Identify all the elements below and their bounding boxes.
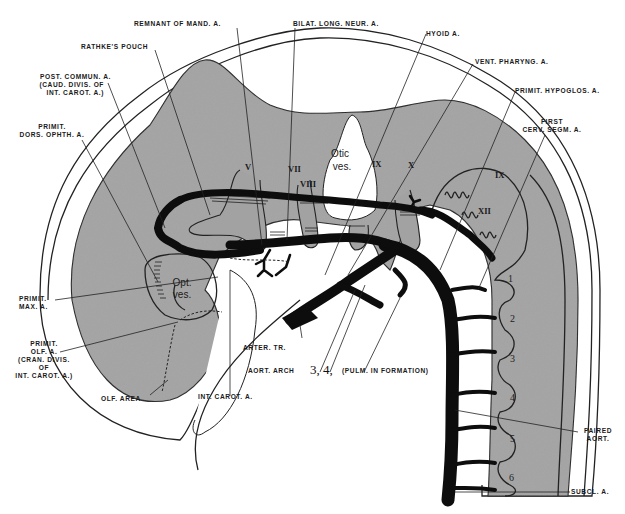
otic-vesicle-label-1: Otic bbox=[331, 148, 349, 159]
label-hyoid: HYOID A. bbox=[426, 30, 460, 37]
label-subcl: SUBCL. A. bbox=[571, 488, 609, 495]
embryo-artery-diagram: Otic ves. Opt. ves. bbox=[0, 0, 625, 514]
label-primit-olf-3: (CRAN. DIVIS. bbox=[18, 356, 70, 364]
label-primit-olf-2: OLF. A. bbox=[31, 348, 58, 355]
label-primit-olf-4: OF bbox=[39, 364, 49, 371]
label-bilat-long-neur: BILAT. LONG. NEUR. A. bbox=[293, 20, 379, 27]
nerve-IX: IX bbox=[372, 159, 382, 169]
label-first-cerv-2: CERV. SEGM. A. bbox=[522, 126, 581, 133]
somite-5: 5 bbox=[510, 433, 515, 444]
label-primit-max-2: MAX. A. bbox=[19, 303, 48, 310]
label-arter-tr: ARTER. TR. bbox=[243, 344, 286, 351]
somite-3: 3 bbox=[510, 353, 515, 364]
label-paired-aort-2: AORT. bbox=[587, 435, 610, 442]
optic-vesicle-label-1: Opt. bbox=[173, 277, 192, 288]
label-paired-aort-1: PAIRED bbox=[584, 427, 612, 434]
label-vent-pharyng: VENT. PHARYNG. A. bbox=[475, 58, 548, 65]
optic-vesicle-label-2: ves. bbox=[173, 289, 191, 300]
label-aort-arch: AORT. ARCH bbox=[248, 367, 294, 374]
label-primit-dors-ophth-2: DORS. OPHTH. A. bbox=[20, 131, 85, 138]
nerve-V: V bbox=[245, 162, 252, 172]
label-arch-numbers: 3, 4, bbox=[310, 362, 333, 377]
label-post-commun-2: (CAUD. DIVIS. OF bbox=[39, 81, 104, 89]
label-remnant-mand: REMNANT OF MAND. A. bbox=[134, 20, 221, 27]
label-primit-max-1: PRIMIT. bbox=[19, 295, 47, 302]
somite-4: 4 bbox=[510, 392, 515, 403]
label-olf-area: OLF. AREA bbox=[101, 395, 141, 402]
label-first-cerv-1: FIRST bbox=[541, 118, 563, 125]
label-pulm-in-formation: (PULM. IN FORMATION) bbox=[342, 367, 429, 375]
otic-vesicle-label-2: ves. bbox=[333, 161, 351, 172]
label-int-carot: INT. CAROT. A. bbox=[198, 393, 253, 400]
label-rathkes-pouch: RATHKE'S POUCH bbox=[81, 43, 148, 50]
label-post-commun-3: INT. CAROT. A.) bbox=[47, 89, 104, 97]
label-primit-olf-1: PRIMIT. bbox=[30, 340, 58, 347]
somite-2: 2 bbox=[510, 313, 515, 324]
label-primit-olf-5: INT. CAROT. A.) bbox=[15, 372, 72, 380]
somite-1: 1 bbox=[508, 273, 513, 284]
brain-tissue bbox=[71, 60, 578, 496]
label-post-commun-1: POST. COMMUN. A. bbox=[40, 73, 111, 80]
label-primit-hypoglos: PRIMIT. HYPOGLOS. A. bbox=[515, 87, 600, 94]
label-primit-dors-ophth-1: PRIMIT. bbox=[38, 123, 66, 130]
nerve-VIII: VIII bbox=[300, 179, 317, 189]
nerve-XII: XII bbox=[478, 206, 491, 216]
somite-6: 6 bbox=[509, 472, 514, 483]
nerve-IX-right: IX bbox=[495, 170, 505, 180]
